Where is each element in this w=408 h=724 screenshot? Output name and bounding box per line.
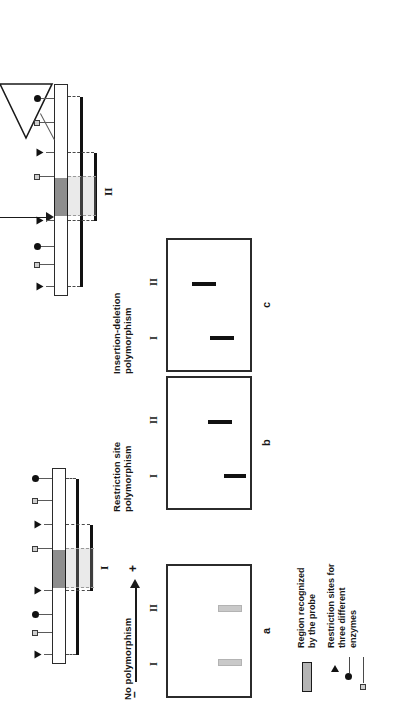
panel-c-caption: Insertion-deletion polymorphism [111,232,133,374]
map-I-leader-8 [39,478,52,479]
panel-c-gel-box [166,238,252,372]
axis-plus-sign: + [126,565,140,572]
map-I-site-square-1 [32,630,38,636]
migration-axis: – + [128,558,144,698]
legend-restriction-sites-label: Restriction sites for three different en… [326,498,359,648]
dna-map-II: Inserted fragment Absent site [14,32,114,312]
legend-probe-region-swatch [302,662,312,692]
panel-c-lane-II: II [148,278,159,286]
panel-c-band-lane-I [210,336,234,340]
map-II-site-triangle-2 [37,217,44,225]
map-II-leader-1 [46,286,54,287]
map-I-site-triangle-1 [35,651,42,659]
panel-a-band-lane-II [218,605,242,612]
map-II-leader-5 [40,176,54,177]
map-II-probe-projection [68,176,96,216]
map-I-site-triangle-2 [35,587,42,595]
map-II-leader-8 [41,98,54,99]
map-I-dash-left-1 [66,653,76,655]
map-I-probe-region [52,550,66,588]
map-I-leader-4 [44,590,52,591]
legend-square-site-icon [360,684,366,690]
panel-b-band-lane-II [208,420,232,424]
map-II-dash-right-1 [68,95,80,97]
map-II-leader-6 [46,152,54,153]
map-I-site-square-3 [32,498,38,504]
axis-line [135,586,137,682]
axis-arrowhead-icon [130,579,140,588]
map-I-dash-right-1 [66,477,76,479]
map-II-absent-site-annotation: Absent site [0,134,16,254]
panel-b-gel-box [166,376,252,510]
map-I-dash-right-2 [66,523,90,525]
panel-b-letter: b [260,439,272,446]
map-I-site-circle-1 [32,611,39,618]
map-I-leader-5 [38,548,52,549]
map-II-leader-3 [41,246,54,247]
map-I-leader-7 [38,500,52,501]
map-II-site-circle-2 [34,95,41,102]
map-II-site-square-1 [34,262,40,268]
dna-map-I: I [24,430,108,680]
figure-stage: No polymorphism I II a – + Restriction s… [0,0,408,724]
map-II-probe-region [54,178,68,216]
panel-c-lane-I: I [148,336,159,340]
panel-a-band-lane-I [218,659,242,666]
panel-a-gel-box [166,564,252,698]
map-II-site-triangle-1 [37,283,44,291]
panel-b-band-lane-I [224,474,246,478]
map-II-dash-left-1 [68,285,80,287]
legend-circle-site-icon [345,673,352,680]
map-I-dash-left-2 [66,589,90,591]
map-II-leader-7 [40,122,54,123]
map-II-leader-2 [40,264,54,265]
panel-a-lane-II: II [148,604,159,612]
legend-restriction-symbols [330,652,374,698]
map-II-site-square-3 [34,120,40,126]
map-I-probe-projection [66,548,94,588]
map-I-leader-2 [38,632,52,633]
panel-c-band-lane-II [192,282,216,286]
map-I-site-circle-2 [32,475,39,482]
map-II-dash-left-2 [68,219,94,221]
panel-b-caption: Restriction site polymorphism [111,382,133,512]
map-II-site-circle-1 [34,243,41,250]
figure-canvas: No polymorphism I II a – + Restriction s… [0,0,408,724]
legend-circle-leader [349,657,350,673]
map-I-leader-3 [39,614,52,615]
map-I-roman-label: I [98,566,110,570]
panel-c-letter: c [260,302,272,308]
map-I-leader-6 [44,524,52,525]
axis-minus-sign: – [127,691,141,698]
panel-a-letter: a [260,628,272,634]
map-II-site-triangle-3 [37,149,44,157]
legend-square-leader [363,657,364,683]
map-II-site-square-2 [34,174,40,180]
legend-probe-region-label: Region recognized by the probe [296,498,318,648]
map-II-inserted-fragment-triangle-icon [0,82,54,140]
map-II-dash-right-2 [68,151,94,153]
panel-b-lane-II: II [148,416,159,424]
map-I-leader-1 [44,654,52,655]
panel-a-lane-I: I [148,662,159,666]
panel-b-lane-I: I [148,474,159,478]
legend: Region recognized by the probe Restricti… [296,468,386,698]
legend-triangle-site-icon [331,665,339,672]
map-I-site-square-2 [32,546,38,552]
map-II-roman-label: II [102,187,114,196]
map-II-leader-4 [46,220,54,221]
map-I-site-triangle-3 [35,521,42,529]
